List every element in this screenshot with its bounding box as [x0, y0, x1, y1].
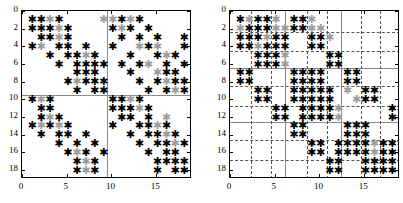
block-divider-vertical: [285, 11, 286, 178]
matrix-entry-marker: ✱: [72, 61, 79, 68]
matrix-entry-marker: ✱: [108, 105, 115, 112]
matrix-entry-marker-secondary: ✱: [334, 114, 341, 121]
matrix-entry-marker: ✱: [72, 69, 79, 76]
x-axis-tick-label: 10: [100, 182, 120, 191]
matrix-entry-marker: ✱: [153, 131, 160, 138]
matrix-entry-marker: ✱: [117, 105, 124, 112]
matrix-entry-marker: ✱: [307, 43, 314, 50]
matrix-entry-marker-secondary: ✱: [316, 25, 323, 32]
matrix-entry-marker: ✱: [36, 131, 43, 138]
matrix-entry-marker: ✱: [63, 43, 70, 50]
matrix-entry-marker: ✱: [162, 140, 169, 147]
matrix-entry-marker: ✱: [253, 16, 260, 23]
y-axis-tick-right: [187, 117, 190, 118]
matrix-entry-marker: ✱: [271, 34, 278, 41]
x-axis-tick-top: [22, 11, 23, 14]
subblock-gridline-horizontal: [230, 51, 399, 52]
matrix-entry-marker: ✱: [316, 69, 323, 76]
matrix-entry-marker: ✱: [162, 69, 169, 76]
matrix-entry-marker: ✱: [117, 61, 124, 68]
matrix-entry-marker: ✱: [36, 105, 43, 112]
matrix-entry-marker: ✱: [316, 78, 323, 85]
matrix-entry-marker: ✱: [117, 34, 124, 41]
matrix-entry-marker: ✱: [99, 149, 106, 156]
matrix-entry-marker: ✱: [27, 43, 34, 50]
matrix-entry-marker: ✱: [343, 122, 350, 129]
y-axis-tick-label: 16: [209, 146, 226, 155]
matrix-entry-marker: ✱: [316, 34, 323, 41]
matrix-entry-marker-secondary: ✱: [153, 122, 160, 129]
x-axis-tick-label: 10: [308, 182, 328, 191]
matrix-entry-marker: ✱: [352, 140, 359, 147]
matrix-entry-marker: ✱: [235, 78, 242, 85]
matrix-entry-marker: ✱: [180, 167, 187, 174]
matrix-entry-marker-secondary: ✱: [36, 96, 43, 103]
matrix-entry-marker-secondary: ✱: [45, 114, 52, 121]
matrix-entry-marker: ✱: [361, 140, 368, 147]
matrix-entry-marker-secondary: ✱: [144, 61, 151, 68]
y-axis-tick-right: [187, 99, 190, 100]
left-plot-area: ✱✱✱✱✱✱✱✱✱✱✱✱✱✱✱✱✱✱✱✱✱✱✱✱✱✱✱✱✱✱✱✱✱✱✱✱✱✱✱✱…: [21, 10, 191, 178]
y-axis-tick-label: 14: [209, 129, 226, 138]
matrix-entry-marker: ✱: [135, 16, 142, 23]
y-axis-tick-label: 10: [1, 93, 18, 102]
matrix-entry-marker: ✱: [298, 25, 305, 32]
matrix-entry-marker: ✱: [162, 122, 169, 129]
x-axis-tick: [67, 174, 68, 177]
matrix-entry-marker: ✱: [63, 149, 70, 156]
matrix-entry-marker: ✱: [180, 61, 187, 68]
matrix-entry-marker: ✱: [298, 131, 305, 138]
matrix-entry-marker-secondary: ✱: [162, 78, 169, 85]
matrix-entry-marker-secondary: ✱: [343, 87, 350, 94]
matrix-entry-marker-secondary: ✱: [171, 87, 178, 94]
matrix-entry-marker: ✱: [235, 34, 242, 41]
matrix-entry-marker: ✱: [253, 25, 260, 32]
matrix-entry-marker: ✱: [253, 52, 260, 59]
matrix-entry-marker: ✱: [81, 131, 88, 138]
matrix-entry-marker: ✱: [307, 114, 314, 121]
matrix-entry-marker: ✱: [262, 43, 269, 50]
matrix-entry-marker: ✱: [244, 25, 251, 32]
block-divider-horizontal: [230, 68, 399, 69]
matrix-entry-marker: ✱: [334, 52, 341, 59]
right-plot-area: ✱✱✱✱✱✱✱✱✱✱✱✱✱✱✱✱✱✱✱✱✱✱✱✱✱✱✱✱✱✱✱✱✱✱✱✱✱✱✱✱…: [229, 10, 399, 178]
matrix-entry-marker: ✱: [144, 149, 151, 156]
matrix-entry-marker: ✱: [271, 114, 278, 121]
y-axis-tick: [22, 46, 25, 47]
y-axis-tick-label: 0: [1, 5, 18, 14]
subblock-gridline-horizontal: [230, 160, 399, 161]
matrix-entry-marker: ✱: [316, 149, 323, 156]
matrix-entry-marker: ✱: [36, 34, 43, 41]
matrix-entry-marker: ✱: [388, 140, 395, 147]
matrix-entry-marker: ✱: [289, 87, 296, 94]
matrix-entry-marker-secondary: ✱: [54, 34, 61, 41]
matrix-entry-marker: ✱: [343, 78, 350, 85]
matrix-entry-marker: ✱: [343, 149, 350, 156]
matrix-entry-marker: ✱: [361, 96, 368, 103]
matrix-entry-marker: ✱: [244, 78, 251, 85]
y-axis-tick-right: [395, 152, 398, 153]
y-axis-tick-label: 0: [209, 5, 226, 14]
x-axis-tick-top: [364, 11, 365, 14]
x-axis-tick-top: [319, 11, 320, 14]
matrix-entry-marker: ✱: [108, 96, 115, 103]
matrix-entry-marker: ✱: [388, 167, 395, 174]
matrix-entry-marker: ✱: [36, 25, 43, 32]
matrix-entry-marker: ✱: [289, 69, 296, 76]
matrix-entry-marker: ✱: [135, 96, 142, 103]
y-axis-tick-right: [395, 46, 398, 47]
y-axis-tick-right: [395, 170, 398, 171]
y-axis-tick-right: [187, 152, 190, 153]
y-axis-tick: [22, 64, 25, 65]
matrix-entry-marker: ✱: [135, 78, 142, 85]
matrix-entry-marker: ✱: [316, 87, 323, 94]
matrix-entry-marker: ✱: [316, 114, 323, 121]
matrix-entry-marker: ✱: [271, 43, 278, 50]
matrix-entry-marker: ✱: [171, 52, 178, 59]
matrix-entry-marker: ✱: [352, 122, 359, 129]
matrix-entry-marker: ✱: [235, 69, 242, 76]
matrix-entry-marker: ✱: [180, 87, 187, 94]
x-axis-tick: [364, 174, 365, 177]
matrix-entry-marker: ✱: [397, 140, 400, 147]
x-axis-tick: [319, 174, 320, 177]
